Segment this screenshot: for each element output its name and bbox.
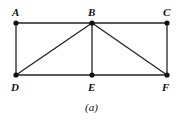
label-c: C	[163, 6, 171, 18]
node-a	[13, 20, 18, 25]
label-e: E	[87, 81, 95, 93]
label-d: D	[10, 81, 19, 93]
edges	[16, 23, 167, 75]
edge-b-f	[92, 23, 167, 75]
node-d	[13, 72, 18, 77]
node-c	[164, 20, 169, 25]
graph-diagram: A B C D E F (a)	[0, 0, 181, 122]
label-f: F	[161, 81, 170, 93]
node-f	[164, 72, 169, 77]
label-a: A	[11, 6, 19, 18]
label-b: B	[87, 6, 95, 18]
edge-b-d	[16, 23, 92, 75]
node-e	[89, 72, 94, 77]
node-labels: A B C D E F	[10, 6, 171, 93]
caption: (a)	[85, 101, 98, 114]
node-b	[89, 20, 94, 25]
